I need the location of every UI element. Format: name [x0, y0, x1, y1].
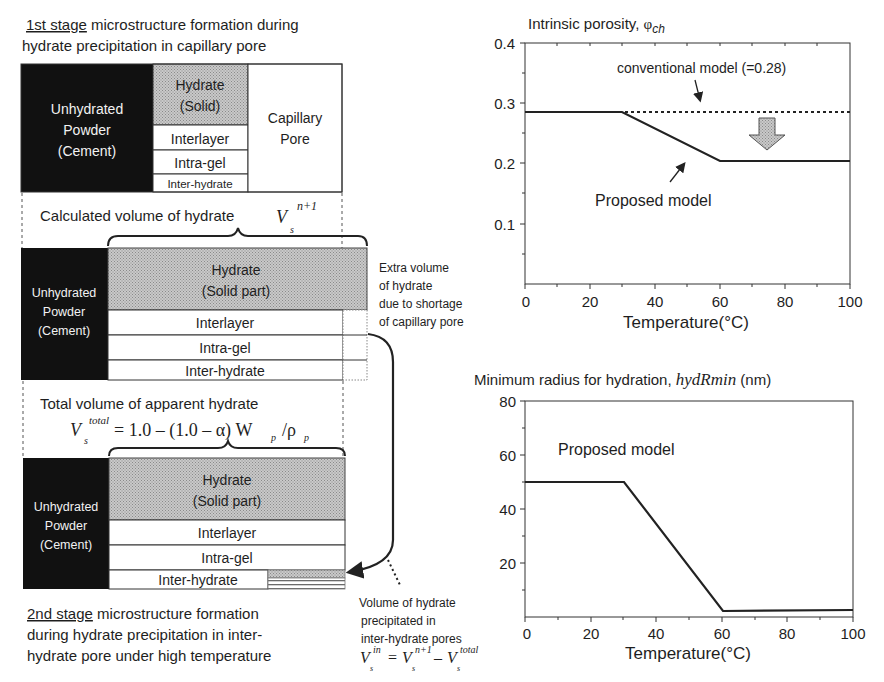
svg-text:40: 40	[648, 625, 665, 642]
inter-note-formula: V in s = V n+1 s – V total s	[360, 644, 479, 673]
vs-total-subscript: s	[84, 435, 88, 446]
chart1-plot-area	[525, 43, 850, 284]
chart2-plot-area	[525, 401, 853, 617]
calculated-volume-label: Calculated volume of hydrate V n+1 s	[40, 199, 317, 235]
stage2-heading: 2nd stage microstructure formation durin…	[27, 605, 271, 664]
svg-text:s: s	[370, 664, 373, 673]
rho-symbol: /ρ	[282, 420, 296, 440]
precipitated-volume-stripes	[268, 578, 345, 589]
mid-interlayer-label: Interlayer	[196, 315, 255, 331]
vs-symbol: V	[276, 207, 289, 227]
calculated-volume-text: Calculated volume of hydrate	[40, 207, 234, 224]
svg-text:20: 20	[583, 625, 600, 642]
total-volume-formula: = 1.0 – (1.0 – α) W	[114, 420, 253, 441]
brace-total-volume	[109, 441, 345, 456]
stage2-interlayer-label: Interlayer	[198, 525, 257, 541]
stage-mid-box: Unhydrated Powder (Cement) Hydrate (Soli…	[21, 248, 367, 380]
chart-min-radius: Minimum radius for hydration, hydRmin (n…	[474, 370, 866, 663]
extra-volume-note: Extra volume of hydrate due to shortage …	[379, 261, 464, 329]
mid-intra-gel-label: Intra-gel	[199, 340, 250, 356]
svg-text:80: 80	[777, 293, 794, 310]
stage1-hydrate-label: Hydrate	[175, 77, 224, 93]
stage1-pore-label: Pore	[280, 131, 310, 147]
stage2-hydrate-label: Hydrate	[202, 472, 251, 488]
total-volume-text: Total volume of apparent hydrate	[40, 395, 258, 412]
chart1-conventional-pointer	[695, 80, 700, 100]
precipitated-volume-dots	[268, 570, 345, 578]
mid-inter-hydrate-label: Inter-hydrate	[185, 363, 265, 379]
svg-text:1st stage microstructure forma: 1st stage microstructure formation durin…	[26, 16, 299, 33]
vs-superscript: n+1	[297, 199, 317, 213]
svg-text:40: 40	[647, 293, 664, 310]
stage2-heading-line3: hydrate pore under high temperature	[27, 647, 271, 664]
formula-sup-total: total	[460, 644, 479, 655]
rho-subscript: p	[303, 432, 309, 443]
svg-text:–: –	[433, 649, 443, 666]
svg-text:100: 100	[837, 293, 862, 310]
stage2-powder-label: Powder	[45, 519, 87, 533]
stage1-powder-label: Powder	[63, 122, 111, 138]
mid-hydrate-label: Hydrate	[211, 262, 260, 278]
extra-note-line3: due to shortage	[379, 297, 463, 311]
stage2-hydrate-solid	[109, 458, 345, 520]
svg-text:80: 80	[779, 625, 796, 642]
vs-total-superscript: total	[89, 414, 109, 426]
svg-text:=: =	[388, 649, 397, 666]
svg-text:60: 60	[714, 625, 731, 642]
stage1-cement-label: (Cement)	[58, 143, 116, 159]
inter-hydrate-note: Volume of hydrate precipitated in inter-…	[359, 596, 479, 673]
stage1-intra-gel-label: Intra-gel	[174, 155, 225, 171]
stage1-capillary-pore	[248, 64, 342, 192]
chart2-ytick-80: 80	[499, 393, 516, 410]
chart1-xlabel: Temperature(°C)	[623, 313, 749, 332]
stage2-inter-hydrate-label: Inter-hydrate	[158, 572, 238, 588]
figure-canvas: 1st stage microstructure formation durin…	[0, 0, 884, 682]
chart2-ytick-20: 20	[499, 555, 516, 572]
inter-note-line2: precipitated in	[361, 614, 436, 628]
chart1-proposed-pointer	[670, 164, 684, 182]
stage2-cement-label: (Cement)	[40, 538, 92, 552]
chart2-ytick-40: 40	[499, 501, 516, 518]
stage1-inter-hydrate-label: Inter-hydrate	[167, 178, 232, 190]
stage2-heading-line2: during hydrate precipitation in inter-	[27, 626, 262, 643]
chart2-title: Minimum radius for hydration, hydRmin (n…	[474, 370, 771, 389]
svg-text:100: 100	[840, 625, 865, 642]
cropped-top-edge	[0, 0, 884, 3]
chart2-ticks	[520, 401, 853, 622]
chart2-ytick-60: 60	[499, 447, 516, 464]
svg-text:2nd stage microstructure forma: 2nd stage microstructure formation	[27, 605, 259, 622]
dotted-pointer	[388, 560, 400, 585]
mid-unhydrated-label: Unhydrated	[32, 286, 97, 300]
decrease-arrow-icon	[749, 118, 785, 150]
chart2-xlabel: Temperature(°C)	[625, 644, 751, 663]
chart1-ytick-0.4: 0.4	[494, 35, 515, 52]
chart2-proposed-annotation: Proposed model	[558, 441, 675, 458]
formula-sup-n1: n+1	[415, 644, 432, 655]
stage2-unhydrated-label: Unhydrated	[34, 500, 99, 514]
stage2-intra-gel-label: Intra-gel	[201, 550, 252, 566]
stage2-solid-part-label: (Solid part)	[193, 493, 261, 509]
chart1-ytick-0.1: 0.1	[494, 216, 515, 233]
chart1-yticks	[520, 43, 850, 289]
stage1-box: Unhydrated Powder (Cement) Hydrate (Soli…	[21, 64, 342, 192]
chart1-title: Intrinsic porosity, φch	[528, 15, 665, 36]
extra-note-line1: Extra volume	[379, 261, 449, 275]
extra-note-line4: of capillary pore	[379, 315, 464, 329]
stage1-solid-label: (Solid)	[180, 98, 220, 114]
chart2-proposed-line	[525, 482, 853, 611]
svg-text:60: 60	[712, 293, 729, 310]
chart1-ytick-0.2: 0.2	[494, 155, 515, 172]
chart2-xticks: 0 20 40 60 80 100	[523, 625, 866, 642]
stage2-heading-underlined: 2nd stage	[27, 605, 93, 622]
stage1-heading-rest: microstructure formation during	[87, 16, 299, 33]
stage2-heading-rest: microstructure formation	[93, 605, 259, 622]
chart1-proposed-line	[525, 112, 850, 161]
chart1-ytick-0.3: 0.3	[494, 95, 515, 112]
extra-note-line2: of hydrate	[379, 279, 433, 293]
total-volume-label: Total volume of apparent hydrate V total…	[40, 395, 309, 446]
stage1-hydrate-solid	[153, 64, 248, 125]
stage2-box: Unhydrated Powder (Cement) Hydrate (Soli…	[23, 458, 345, 589]
mid-cement-label: (Cement)	[38, 324, 90, 338]
chart1-xticks: 0 20 40 60 80 100	[522, 293, 863, 310]
svg-text:20: 20	[582, 293, 599, 310]
